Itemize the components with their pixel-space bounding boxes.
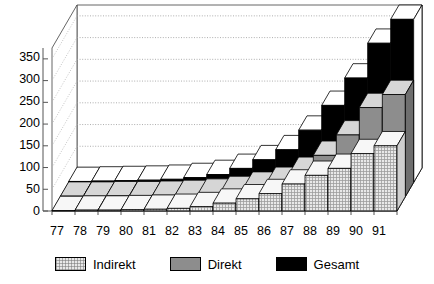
gesamt-swatch-icon (276, 257, 307, 271)
plot-svg (0, 0, 434, 284)
direkt-swatch-icon (170, 257, 201, 271)
legend-label-indirekt: Indirekt (93, 258, 136, 271)
chart-legend: Indirekt Direkt Gesamt (55, 252, 385, 276)
legend-item-gesamt: Gesamt (276, 257, 360, 271)
legend-label-gesamt: Gesamt (314, 258, 360, 271)
chart-figure: 350 300 250 200 150 100 50 0 77 78 79 80… (0, 0, 434, 284)
legend-item-indirekt: Indirekt (55, 257, 136, 271)
legend-label-direkt: Direkt (208, 258, 242, 271)
plot-area (0, 0, 434, 284)
indirekt-swatch-icon (55, 257, 86, 271)
legend-item-direkt: Direkt (170, 257, 242, 271)
